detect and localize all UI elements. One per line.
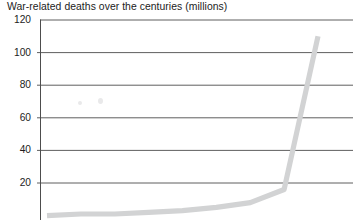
scan-artifact-speck: [78, 101, 82, 105]
scan-artifact-speck: [98, 98, 103, 104]
ytick-label-20: 20: [1, 178, 31, 188]
ytick-label-60: 60: [1, 113, 31, 123]
y-axis-ticks: [37, 53, 40, 183]
ytick-label-40: 40: [1, 145, 31, 155]
ytick-label-100: 100: [1, 48, 31, 58]
plot-area: [0, 0, 362, 220]
chart-figure: War-related deaths over the centuries (m…: [0, 0, 362, 220]
ytick-label-80: 80: [1, 80, 31, 90]
ytick-label-120: 120: [1, 15, 31, 25]
data-series-line: [47, 36, 318, 215]
